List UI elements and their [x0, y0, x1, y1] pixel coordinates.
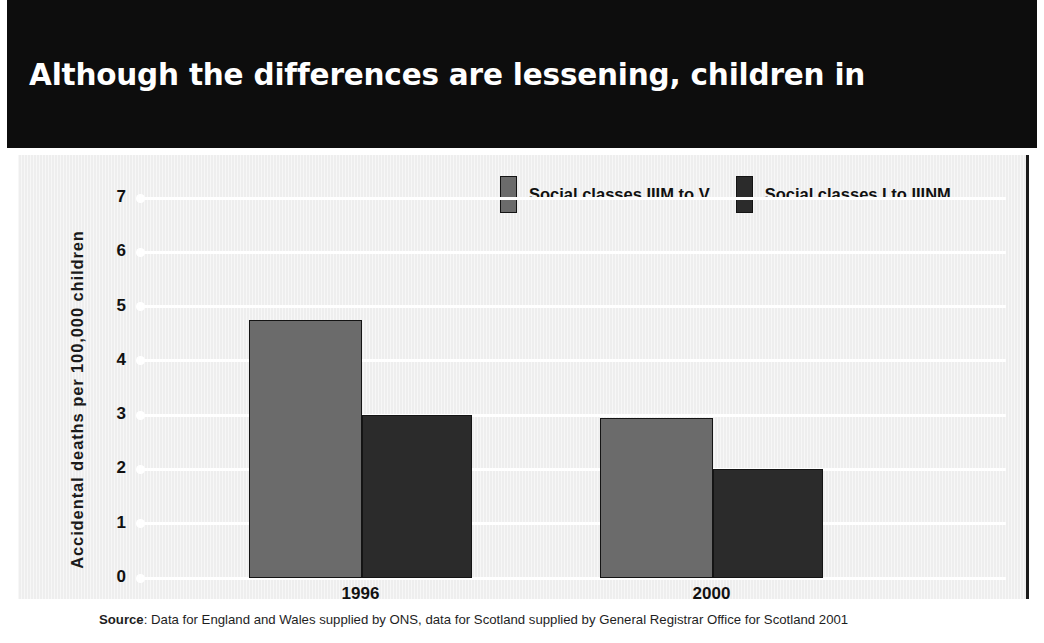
title-line-2-post: times as — [648, 147, 797, 148]
plot-area: 0123456719962000 — [140, 198, 1006, 578]
bar-1996-series-1 — [362, 415, 472, 578]
source-text: Data for England and Wales supplied by O… — [151, 612, 848, 627]
y-tick-label-6: 6 — [86, 241, 126, 261]
y-tick-label-4: 4 — [86, 350, 126, 370]
x-axis-label-2000: 2000 — [600, 584, 823, 599]
banner: Although the differences are lessening, … — [7, 0, 1037, 148]
tick-dot-5 — [136, 302, 145, 311]
gridline-5 — [140, 305, 1006, 308]
tick-dot-0 — [136, 574, 145, 583]
tick-dot-3 — [136, 411, 145, 420]
tick-dot-1 — [136, 519, 145, 528]
tick-dot-7 — [136, 194, 145, 203]
y-tick-label-0: 0 — [86, 567, 126, 587]
title-line-1: Although the differences are lessening, … — [29, 58, 865, 92]
y-tick-label-3: 3 — [86, 404, 126, 424]
bar-1996-series-0 — [249, 320, 362, 578]
x-axis-label-1996: 1996 — [249, 584, 472, 599]
source-label: Source — [99, 612, 144, 627]
tick-dot-2 — [136, 465, 145, 474]
title-line-2-pre: the manual social classes are still 1 — [29, 147, 614, 148]
tick-dot-4 — [136, 356, 145, 365]
chart-panel: Accidental deaths per 100,000 children S… — [18, 155, 1029, 599]
source-note: Source: Data for England and Wales suppl… — [99, 612, 848, 627]
y-tick-label-5: 5 — [86, 296, 126, 316]
y-tick-label-7: 7 — [86, 187, 126, 207]
gridline-7 — [140, 197, 1006, 200]
source-separator: : — [144, 612, 151, 627]
tick-dot-6 — [136, 248, 145, 257]
panel-right-rule — [1026, 155, 1029, 599]
page-title: Although the differences are lessening, … — [29, 12, 1019, 148]
bar-2000-series-1 — [713, 469, 823, 578]
gridline-6 — [140, 251, 1006, 254]
poster-root: Although the differences are lessening, … — [0, 0, 1044, 643]
bar-2000-series-0 — [600, 418, 713, 578]
y-tick-label-1: 1 — [86, 513, 126, 533]
y-axis-title: Accidental deaths per 100,000 children — [68, 200, 87, 600]
y-tick-label-2: 2 — [86, 458, 126, 478]
